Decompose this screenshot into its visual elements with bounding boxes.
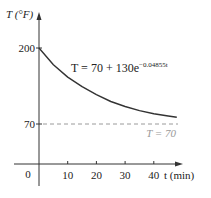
chart: 0 10 20 30 40 200 70 T (°F) t (min) T = … — [0, 0, 211, 198]
decay-curve — [39, 48, 177, 117]
y-tick-label-70: 70 — [24, 118, 36, 130]
y-axis-label: T (°F) — [6, 8, 33, 21]
y-axis-arrow-icon — [37, 12, 42, 20]
x-tick-label-30: 30 — [120, 169, 132, 181]
origin-label: 0 — [25, 168, 31, 180]
equation-exponent: −0.04855t — [139, 61, 168, 69]
x-tick-label-40: 40 — [148, 169, 160, 181]
curve-equation-label: T = 70 + 130e−0.04855t — [71, 61, 168, 75]
y-tick-label-200: 200 — [19, 42, 36, 54]
asymptote-label: T = 70 — [146, 127, 176, 139]
x-axis-arrow-icon — [175, 162, 183, 167]
x-tick-label-10: 10 — [62, 169, 74, 181]
equation-main: T = 70 + 130e — [71, 61, 139, 75]
x-tick-label-20: 20 — [91, 169, 103, 181]
x-axis-label: t (min) — [164, 169, 195, 182]
